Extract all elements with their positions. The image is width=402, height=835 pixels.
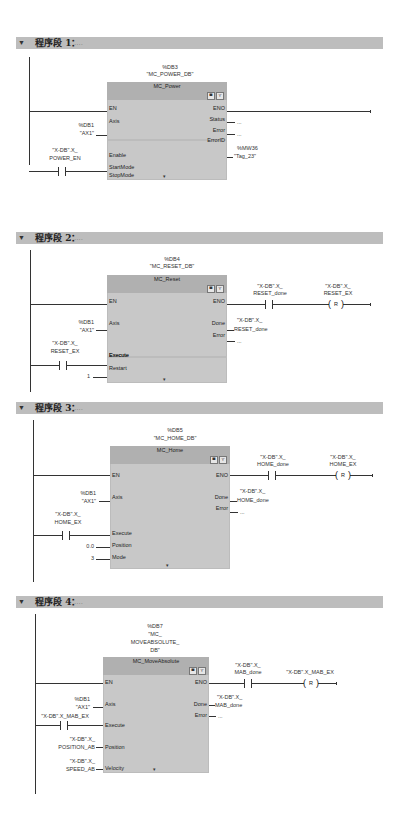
- instance-db-name[interactable]: "MC_HOME_DB": [135, 435, 215, 442]
- done-value-1[interactable]: "X-DB".X_: [217, 694, 242, 701]
- execute-contact-tag-2[interactable]: RESET_EX: [40, 348, 90, 355]
- mc-reset-block[interactable]: MC_Reset ▀ ϒ EN Axis Execute ENO Done Er…: [107, 275, 227, 357]
- settings-icon[interactable]: ϒ: [198, 667, 206, 675]
- errorid-value[interactable]: "Tag_23": [234, 153, 256, 160]
- network-comment[interactable]: ....: [74, 596, 83, 607]
- axis-value[interactable]: "AX1": [62, 498, 96, 505]
- diagnostics-icon[interactable]: ▀: [207, 285, 215, 293]
- reset-coil-icon[interactable]: (R): [336, 471, 350, 480]
- mc-moveabsolute-block[interactable]: MC_MoveAbsolute ▀ ϒ EN Axis Execute Posi…: [103, 657, 209, 773]
- contact-tag-1[interactable]: "X-DB".X_: [223, 662, 273, 669]
- diagnostics-icon[interactable]: ▀: [189, 667, 197, 675]
- coil-tag-1[interactable]: "X-DB".X_: [323, 454, 363, 461]
- pin-error: Error: [213, 332, 225, 339]
- position-value-2[interactable]: POSITION_AB: [40, 744, 95, 751]
- settings-icon[interactable]: ϒ: [216, 285, 224, 293]
- coil-tag-2[interactable]: HOME_EX: [323, 461, 363, 468]
- pin-status: Status: [209, 116, 225, 123]
- axis-value[interactable]: "AX1": [60, 327, 94, 334]
- execute-contact-tag[interactable]: "X-DB".X_MAB_EX: [37, 713, 93, 720]
- coil-tag-1[interactable]: "X-DB".X_: [318, 283, 358, 290]
- network-4-header[interactable]: ▼ 程序段 4： ....: [16, 596, 383, 608]
- done-value-1[interactable]: "X-DB".X_: [240, 488, 265, 495]
- no-contact-icon[interactable]: [58, 167, 66, 176]
- reset-coil-icon[interactable]: (R): [329, 300, 343, 309]
- network-comment[interactable]: ....: [74, 232, 83, 243]
- position-value-1[interactable]: "X-DB".X_: [50, 736, 95, 743]
- network-2-header[interactable]: ▼ 程序段 2： ....: [16, 232, 383, 244]
- collapse-triangle-icon[interactable]: ▼: [18, 597, 25, 607]
- collapse-triangle-icon[interactable]: ▼: [18, 38, 25, 48]
- contact-tag-2[interactable]: MAB_done: [223, 669, 273, 676]
- contact-tag-1[interactable]: "X-DB".X_: [248, 454, 298, 461]
- error-wire: [227, 134, 235, 135]
- no-contact-icon[interactable]: [244, 679, 252, 688]
- position-value[interactable]: 0.0: [78, 543, 94, 550]
- instance-db-name[interactable]: "MC_POWER_DB": [130, 71, 210, 78]
- pin-mode: Mode: [112, 554, 126, 561]
- status-value[interactable]: ...: [237, 119, 242, 126]
- pin-eno: ENO: [213, 298, 225, 305]
- error-value[interactable]: ...: [237, 131, 242, 138]
- restart-value[interactable]: 1: [80, 373, 90, 380]
- mode-value[interactable]: 3: [84, 555, 94, 562]
- mc-reset-block-lower[interactable]: Execute Restart ▾: [107, 357, 227, 383]
- pin-errorid: ErrorID: [207, 137, 225, 144]
- reset-coil-icon[interactable]: (R): [304, 679, 318, 688]
- enable-contact-tag-2[interactable]: POWER_EN: [40, 155, 90, 162]
- done-value-2[interactable]: HOME_done: [237, 497, 269, 504]
- network-comment[interactable]: ....: [74, 402, 83, 413]
- execute-contact-tag-1[interactable]: "X-DB".X_: [43, 511, 93, 518]
- error-value[interactable]: ...: [240, 509, 245, 516]
- block-icons: ▀ ϒ: [207, 92, 224, 100]
- network-3-header[interactable]: ▼ 程序段 3： ....: [16, 402, 383, 414]
- pin-velocity: Velocity: [105, 765, 124, 772]
- instance-db-name[interactable]: "MC_RESET_DB": [132, 263, 212, 270]
- expand-block-icon[interactable]: ▾: [163, 174, 166, 179]
- done-value-2[interactable]: MAB_done: [215, 702, 242, 709]
- diagnostics-icon[interactable]: ▀: [210, 456, 218, 464]
- network-1-header[interactable]: ▼ 程序段 1： ....: [16, 37, 383, 49]
- mc-power-block-lower[interactable]: ErrorID Enable StartMode StopMode ▾: [107, 140, 227, 180]
- coil-tag[interactable]: "X-DB".X_MAB_EX: [280, 669, 340, 676]
- instance-db-name-3[interactable]: DB": [125, 647, 185, 654]
- contact-tag-2[interactable]: HOME_done: [248, 461, 298, 468]
- expand-block-icon[interactable]: ▾: [163, 377, 166, 382]
- pin-done: Done: [212, 320, 225, 327]
- done-value-1[interactable]: "X-DB".X_: [237, 317, 262, 324]
- settings-icon[interactable]: ϒ: [216, 92, 224, 100]
- enable-contact-tag-1[interactable]: "X-DB".X_: [40, 147, 90, 154]
- collapse-triangle-icon[interactable]: ▼: [18, 233, 25, 243]
- error-wire: [227, 341, 235, 342]
- instance-db-name-2[interactable]: MOVEABSOLUTE_: [120, 639, 190, 646]
- error-value[interactable]: ...: [218, 713, 223, 720]
- no-contact-icon[interactable]: [59, 361, 67, 370]
- settings-icon[interactable]: ϒ: [219, 456, 227, 464]
- execute-contact-tag-2[interactable]: HOME_EX: [43, 519, 93, 526]
- velocity-value-1[interactable]: "X-DB".X_: [50, 758, 95, 765]
- contact-tag-2[interactable]: RESET_done: [245, 290, 295, 297]
- diagnostics-icon[interactable]: ▀: [207, 92, 215, 100]
- contact-tag-1[interactable]: "X-DB".X_: [245, 283, 295, 290]
- done-value-2[interactable]: RESET_done: [234, 326, 268, 333]
- eno-wire: [227, 304, 265, 305]
- axis-value[interactable]: "AX1": [56, 704, 90, 711]
- axis-wire: [96, 330, 107, 331]
- no-contact-icon[interactable]: [265, 300, 273, 309]
- expand-block-icon[interactable]: ▾: [166, 563, 169, 568]
- no-contact-icon[interactable]: [62, 531, 70, 540]
- mc-power-block[interactable]: MC_Power ▀ ϒ EN Axis Enable ENO Status E…: [107, 82, 227, 140]
- axis-value[interactable]: "AX1": [60, 130, 94, 137]
- mc-home-block[interactable]: MC_Home ▀ ϒ EN Axis Execute Position Mod…: [110, 446, 230, 569]
- expand-block-icon[interactable]: ▾: [153, 767, 156, 772]
- no-contact-icon[interactable]: [60, 721, 68, 730]
- instance-db-name-1[interactable]: "MC_: [125, 631, 185, 638]
- error-value[interactable]: ...: [237, 338, 242, 345]
- velocity-value-2[interactable]: SPEED_AB: [40, 766, 95, 773]
- power-rail: [33, 420, 34, 582]
- network-comment[interactable]: ....: [74, 37, 83, 48]
- execute-contact-tag-1[interactable]: "X-DB".X_: [40, 340, 90, 347]
- no-contact-icon[interactable]: [268, 471, 276, 480]
- collapse-triangle-icon[interactable]: ▼: [18, 403, 25, 413]
- coil-tag-2[interactable]: RESET_EX: [318, 290, 358, 297]
